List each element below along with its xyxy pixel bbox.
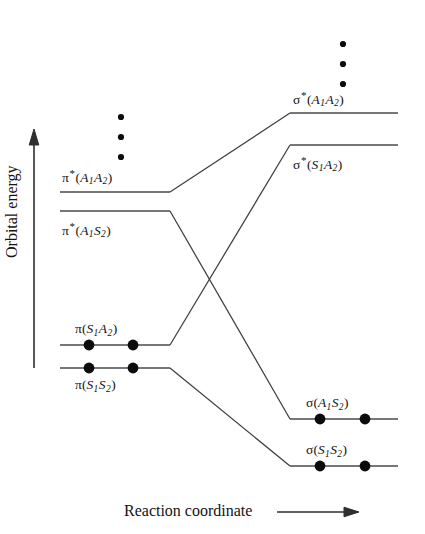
ellipsis-dot (340, 41, 346, 47)
symmetry-letter-1: S (318, 442, 325, 457)
level-symbol: π (75, 321, 82, 336)
x-axis-label: Reaction coordinate (124, 503, 252, 519)
electron-dot (360, 461, 371, 472)
energy-level-lines (60, 113, 398, 466)
antibonding-star: * (69, 167, 76, 179)
ellipsis-dot (340, 81, 346, 87)
symmetry-letter-1: A (312, 92, 320, 107)
symmetry-letter-2: S (99, 377, 106, 392)
symmetry-letter-2: A (325, 92, 333, 107)
symmetry-letter-1: A (80, 223, 88, 238)
diagram-canvas (0, 0, 425, 534)
level-label-pi-star-A1A2: π*(A1A2) (62, 168, 112, 187)
level-label-sigma-S1S2: σ(S1S2) (306, 443, 347, 459)
level-label-pi-S1A2: π(S1A2) (75, 322, 117, 338)
correlation-pi-star-A1A2-to-sigma-star-A1A2 (170, 113, 290, 192)
level-symbol: π (75, 377, 82, 392)
symmetry-letter-1: A (80, 170, 88, 185)
electron-dot (84, 340, 95, 351)
paren-close: ) (113, 321, 118, 336)
paren-close: ) (344, 395, 349, 410)
vertical-ellipsis-reactant (118, 114, 124, 160)
paren-close: ) (111, 377, 116, 392)
y-axis-label: Orbital energy (4, 165, 20, 258)
ellipsis-dot (118, 154, 124, 160)
electron-dot (315, 461, 326, 472)
electron-dot (128, 363, 139, 374)
level-symbol: π (62, 223, 69, 238)
antibonding-star: * (300, 154, 307, 166)
y-axis-arrowhead (29, 129, 39, 145)
paren-close: ) (339, 92, 344, 107)
ellipsis-dot (118, 134, 124, 140)
correlation-pi-S1S2-to-sigma-S1S2 (170, 368, 290, 466)
antibonding-star: * (69, 220, 76, 232)
symmetry-letter-2: S (332, 395, 339, 410)
level-label-sigma-star-S1A2: σ*(S1A2) (293, 155, 342, 174)
level-label-sigma-A1S2: σ(A1S2) (306, 396, 349, 412)
x-axis-arrowhead (344, 507, 359, 517)
electron-dot (128, 340, 139, 351)
orbital-correlation-diagram: π*(A1A2) π*(A1S2) π(S1A2) π(S1S2) σ*(A1A… (0, 0, 425, 534)
antibonding-star: * (300, 89, 307, 101)
vertical-ellipsis-product (340, 41, 346, 87)
level-label-sigma-star-A1A2: σ*(A1A2) (293, 90, 344, 109)
symmetry-letter-2: S (94, 223, 101, 238)
ellipsis-dot (340, 61, 346, 67)
level-label-pi-S1S2: π(S1S2) (75, 378, 116, 394)
level-symbol: π (62, 170, 69, 185)
paren-close: ) (338, 157, 343, 172)
symmetry-letter-2: A (99, 321, 107, 336)
electron-dot (84, 363, 95, 374)
correlation-lines (170, 113, 290, 466)
paren-close: ) (106, 223, 111, 238)
symmetry-letter-2: A (324, 157, 332, 172)
electron-dot (315, 414, 326, 425)
paren-close: ) (108, 170, 113, 185)
paren-close: ) (343, 442, 348, 457)
ellipsis-dot (118, 114, 124, 120)
level-label-pi-star-A1S2: π*(A1S2) (62, 221, 111, 240)
electron-dot (360, 414, 371, 425)
